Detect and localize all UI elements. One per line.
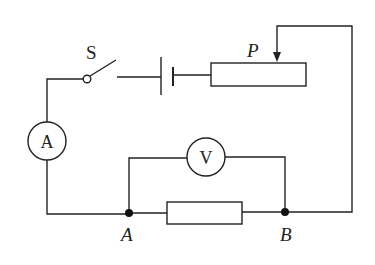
battery — [161, 57, 173, 95]
node-b — [281, 208, 289, 216]
switch: S — [83, 42, 116, 83]
slider-arrow-icon — [273, 52, 281, 62]
circuit-diagram: S P A V A B — [0, 0, 375, 265]
slider-label: P — [246, 40, 259, 61]
node-a — [125, 209, 133, 217]
ammeter: A — [28, 122, 66, 160]
voltmeter: V — [187, 138, 225, 176]
node-a-label: A — [119, 224, 133, 245]
node-b-label: B — [280, 224, 292, 245]
resistor — [167, 202, 242, 224]
voltmeter-symbol: V — [200, 148, 213, 168]
rheostat: P — [211, 40, 306, 86]
wire-left-bottom — [47, 160, 129, 214]
switch-label: S — [86, 42, 97, 63]
wire-slider-return — [277, 26, 352, 212]
rheostat-body — [211, 63, 306, 86]
ammeter-symbol: A — [41, 132, 54, 152]
switch-pivot-icon — [83, 75, 91, 83]
wire-left-top — [47, 79, 84, 122]
